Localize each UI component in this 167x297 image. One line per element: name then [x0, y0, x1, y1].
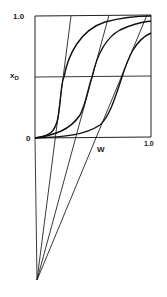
y-top-tick-label: 1.0 — [13, 12, 25, 21]
curve-2 — [35, 21, 151, 138]
x-right-tick-label: 1.0 — [144, 140, 154, 147]
diagram: 1.0 0 1.0 W xD — [0, 0, 167, 297]
curve-3 — [35, 33, 151, 138]
midline — [35, 76, 151, 77]
y-axis-label-sub: D — [14, 75, 19, 81]
x-axis-label: W — [97, 145, 105, 154]
y-axis-label: xD — [10, 71, 19, 81]
y-axis-extension — [35, 138, 37, 280]
y-zero-tick-label: 0 — [26, 134, 31, 143]
operating-line-1 — [37, 16, 71, 280]
